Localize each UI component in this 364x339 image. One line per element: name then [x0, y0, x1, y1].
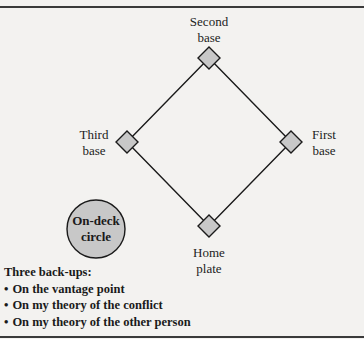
backup-item: On the vantage point — [4, 281, 191, 298]
third-base-label: Third base — [74, 127, 114, 159]
backups-heading: Three back-ups: — [4, 264, 191, 281]
second-base-label-line2: base — [179, 30, 239, 46]
first-base-label: First base — [304, 127, 344, 159]
backup-item: On my theory of the other person — [4, 314, 191, 331]
first-base-label-line2: base — [304, 143, 344, 159]
backups-list: Three back-ups: On the vantage point On … — [4, 264, 191, 330]
first-base-label-line1: First — [304, 127, 344, 143]
second-base-label-line1: Second — [179, 14, 239, 30]
diamond-outline — [127, 58, 291, 226]
home-plate-label: Home plate — [184, 245, 234, 277]
backup-item: On my theory of the conflict — [4, 297, 191, 314]
bottom-rule — [0, 336, 364, 338]
third-base-label-line1: Third — [74, 127, 114, 143]
on-deck-label-line1: On-deck — [66, 213, 126, 229]
second-base-label: Second base — [179, 14, 239, 46]
home-plate-label-line2: plate — [184, 261, 234, 277]
home-plate-label-line1: Home — [184, 245, 234, 261]
on-deck-label-line2: circle — [66, 229, 126, 245]
on-deck-circle-label: On-deck circle — [66, 213, 126, 245]
third-base-label-line2: base — [74, 143, 114, 159]
